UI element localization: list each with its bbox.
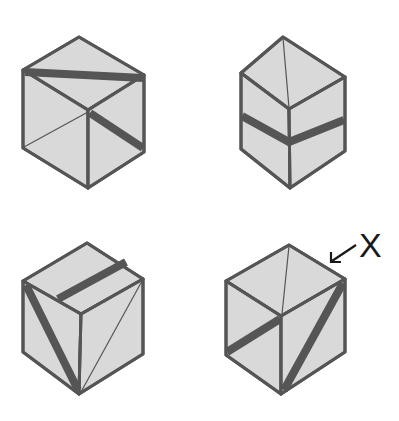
- x-label: X: [359, 228, 382, 262]
- cube-top-left: [23, 37, 144, 188]
- arrow-icon: [331, 245, 356, 262]
- cube-bottom-left: [23, 243, 143, 394]
- cube-diagram: [0, 0, 399, 421]
- vertical-edge: [79, 314, 81, 394]
- figure-stage: X: [0, 0, 399, 421]
- cube-bottom-right: [226, 245, 345, 394]
- vertical-edge: [289, 109, 290, 188]
- cube-top-right: [241, 37, 345, 188]
